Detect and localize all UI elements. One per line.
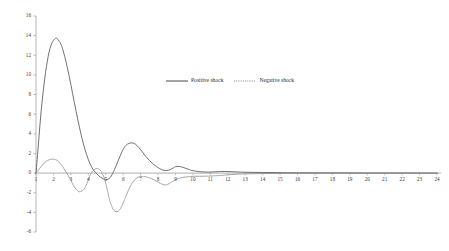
x-tick-label-17: 18 (325, 177, 339, 182)
x-tick-label-2: 3 (64, 177, 78, 182)
y-tick-label-6: 4 (6, 131, 31, 136)
impulse-response-chart: 1614121086420-2-4-6 12345678910111213141… (0, 0, 449, 251)
y-tick-label-5: 6 (6, 112, 31, 117)
x-tick-label-12: 13 (238, 177, 252, 182)
chart-legend: Positive shock Negative shock (166, 78, 294, 84)
x-tick-label-22: 23 (413, 177, 427, 182)
legend-label-positive-shock: Positive shock (191, 78, 223, 84)
axis-layer (34, 16, 442, 232)
series-line-positive-shock (36, 38, 437, 180)
y-tick-label-7: 2 (6, 151, 31, 156)
x-tick-label-14: 15 (273, 177, 287, 182)
legend-swatch-solid-icon (166, 79, 188, 83)
x-tick-label-11: 12 (221, 177, 235, 182)
x-tick-label-6: 7 (134, 177, 148, 182)
chart-plot-area (0, 0, 449, 251)
y-tick-label-4: 8 (6, 92, 31, 97)
y-tick-label-2: 12 (6, 53, 31, 58)
x-tick-label-16: 17 (308, 177, 322, 182)
x-tick-label-10: 11 (203, 177, 217, 182)
series-layer (36, 38, 437, 212)
y-tick-label-8: 0 (6, 170, 31, 175)
x-tick-label-9: 10 (186, 177, 200, 182)
legend-entry-positive-shock: Positive shock (166, 78, 223, 84)
y-tick-label-3: 10 (6, 72, 31, 77)
x-tick-label-1: 2 (46, 177, 60, 182)
legend-swatch-dotted-icon (234, 79, 256, 83)
x-tick-label-21: 22 (395, 177, 409, 182)
legend-entry-negative-shock: Negative shock (234, 78, 294, 84)
x-tick-label-18: 19 (343, 177, 357, 182)
x-tick-label-19: 20 (360, 177, 374, 182)
x-tick-label-15: 16 (291, 177, 305, 182)
x-tick-label-4: 5 (99, 177, 113, 182)
x-tick-label-23: 24 (430, 177, 444, 182)
y-tick-label-0: 16 (6, 13, 31, 18)
y-tick-label-1: 14 (6, 33, 31, 38)
x-tick-label-7: 8 (151, 177, 165, 182)
x-tick-label-8: 9 (168, 177, 182, 182)
legend-label-negative-shock: Negative shock (259, 78, 294, 84)
x-tick-label-13: 14 (256, 177, 270, 182)
series-line-negative-shock (36, 159, 437, 212)
x-tick-label-5: 6 (116, 177, 130, 182)
y-tick-label-9: -2 (6, 190, 31, 195)
x-tick-label-3: 4 (81, 177, 95, 182)
y-tick-label-10: -4 (6, 210, 31, 215)
x-tick-label-20: 21 (378, 177, 392, 182)
x-tick-label-0: 1 (29, 177, 43, 182)
y-tick-label-11: -6 (6, 229, 31, 234)
